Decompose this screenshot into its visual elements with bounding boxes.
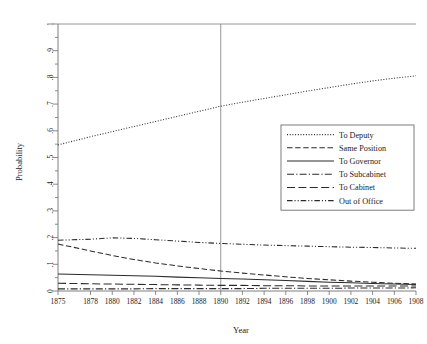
y-tick-label: .6 [46, 128, 55, 134]
legend-label-same-position: Same Position [339, 144, 386, 153]
y-tick-label: .9 [46, 48, 55, 54]
x-tick-label: 1904 [365, 297, 380, 306]
x-tick-label: 1906 [387, 297, 402, 306]
y-tick-label: .7 [46, 101, 55, 107]
x-tick-label: 1892 [235, 297, 250, 306]
chart-legend: To DeputySame PositionTo GovernorTo Subc… [281, 125, 414, 210]
x-tick-label: 1878 [83, 297, 98, 306]
x-axis-tick-labels: 1875187818801882188418861888189018921894… [51, 297, 424, 306]
series-line-same-position [58, 244, 416, 284]
x-tick-label: 1884 [148, 297, 163, 306]
y-axis-tick-labels: 0.1.2.3.4.5.6.7.8.91 [46, 22, 55, 293]
y-tick-label: .1 [46, 261, 55, 267]
y-tick-label: .3 [46, 208, 55, 214]
x-tick-label: 1896 [278, 297, 293, 306]
chart-figure: 0.1.2.3.4.5.6.7.8.91 1875187818801882188… [0, 0, 427, 344]
legend-label-to-cabinet: To Cabinet [339, 183, 376, 192]
x-axis-ticks [58, 291, 416, 295]
x-tick-label: 1908 [409, 297, 424, 306]
y-tick-label: .8 [46, 74, 55, 80]
legend-label-to-deputy: To Deputy [339, 131, 375, 140]
y-tick-label: 0 [46, 289, 55, 293]
series-line-to-subcabinet [58, 288, 416, 289]
line-chart-canvas: 0.1.2.3.4.5.6.7.8.91 1875187818801882188… [0, 0, 427, 344]
x-tick-label: 1886 [170, 297, 185, 306]
series-line-to-governor [58, 274, 416, 285]
x-tick-label: 1900 [322, 297, 337, 306]
x-tick-label: 1875 [51, 297, 66, 306]
y-tick-label: 1 [46, 22, 55, 26]
series-line-out-of-office [58, 238, 416, 248]
legend-label-to-governor: To Governor [339, 157, 381, 166]
x-tick-label: 1890 [213, 297, 228, 306]
x-tick-label: 1894 [257, 297, 272, 306]
legend-label-out-of-office: Out of Office [339, 197, 383, 206]
y-axis-title: Probability [14, 142, 24, 181]
y-tick-label: .5 [46, 154, 55, 160]
x-tick-label: 1882 [127, 297, 142, 306]
x-tick-label: 1888 [192, 297, 207, 306]
y-tick-label: .2 [46, 235, 55, 241]
x-axis-title: Year [233, 325, 249, 335]
legend-label-to-subcabinet: To Subcabinet [339, 170, 387, 179]
x-tick-label: 1902 [344, 297, 359, 306]
y-tick-label: .4 [46, 181, 55, 187]
x-tick-label: 1898 [300, 297, 315, 306]
x-tick-label: 1880 [105, 297, 120, 306]
